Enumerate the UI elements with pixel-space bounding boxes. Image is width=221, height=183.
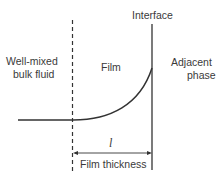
arrow-head-right-icon [147,151,152,155]
bulk-fluid-label-line2: bulk fluid [13,68,54,81]
film-model-diagram [0,0,221,183]
film-label: Film [101,61,121,74]
arrow-head-left-icon [73,151,78,155]
bulk-fluid-label-line1: Well-mixed [6,55,58,68]
film-thickness-label: Film thickness [80,158,147,171]
adjacent-phase-label-line1: Adjacent [171,56,212,69]
adjacent-phase-label-line2: phase [187,69,216,82]
length-symbol: l [109,137,112,150]
interface-label: Interface [132,9,173,22]
